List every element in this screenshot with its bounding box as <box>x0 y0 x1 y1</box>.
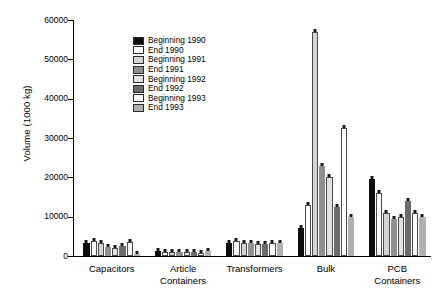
bar-top-marker <box>85 240 88 243</box>
bar <box>398 217 404 256</box>
legend-label: End 1992 <box>148 84 184 93</box>
bar-top-marker <box>99 240 102 243</box>
y-axis-tick-label-wrap: 0 <box>0 252 68 261</box>
bar <box>326 177 332 256</box>
bar-top-marker <box>185 249 188 252</box>
y-axis-tick-label: 0 <box>24 252 68 261</box>
bar <box>298 228 304 256</box>
bar-top-marker <box>249 240 252 243</box>
bar-group <box>83 20 140 256</box>
bar-top-marker <box>264 241 267 244</box>
bar <box>233 241 239 256</box>
bar-top-marker <box>392 216 395 219</box>
bar <box>412 213 418 256</box>
bar-top-marker <box>178 249 181 252</box>
bar <box>98 243 104 256</box>
y-axis-tick-label: 30000 <box>24 134 68 143</box>
bar <box>162 252 168 256</box>
bar-top-marker <box>242 240 245 243</box>
x-axis-category-label-line: PCB <box>352 263 436 275</box>
bar <box>127 242 133 256</box>
bar <box>205 251 211 256</box>
y-axis-tick-label-wrap: 20000 <box>0 173 68 182</box>
x-axis-category-label-line: Containers <box>138 275 228 287</box>
bar-top-marker <box>399 214 402 217</box>
plot-area <box>74 20 431 256</box>
bar-top-marker <box>192 249 195 252</box>
bar-top-marker <box>378 190 381 193</box>
bar <box>112 248 118 256</box>
bar <box>405 201 411 256</box>
y-axis-tick-label: 40000 <box>24 94 68 103</box>
bar-top-marker <box>171 249 174 252</box>
bar <box>255 244 261 256</box>
bar-top-marker <box>92 238 95 241</box>
legend-item: End 1993 <box>133 103 206 113</box>
y-axis-tick-label-wrap: 60000 <box>0 16 68 25</box>
bar-top-marker <box>107 244 110 247</box>
y-axis-tick-label: 10000 <box>24 212 68 221</box>
y-axis-tick-label-wrap: 40000 <box>0 94 68 103</box>
x-axis-category-label: PCBContainers <box>352 263 436 286</box>
legend-swatch <box>133 94 144 102</box>
bar-group <box>298 20 355 256</box>
legend-swatch <box>133 104 144 112</box>
bar <box>184 252 190 256</box>
bar <box>277 243 283 256</box>
bar-top-marker <box>200 250 203 253</box>
bar <box>419 217 425 256</box>
bar <box>334 207 340 256</box>
bar <box>348 217 354 256</box>
bar-top-marker <box>114 245 117 248</box>
bar-top-marker <box>342 125 345 128</box>
bar <box>91 241 97 256</box>
bar <box>262 244 268 256</box>
bar <box>248 243 254 256</box>
bar-top-marker <box>207 248 210 251</box>
bar-top-marker <box>164 249 167 252</box>
legend-swatch <box>133 46 144 54</box>
bar <box>191 252 197 256</box>
bar-top-marker <box>335 204 338 207</box>
y-axis-tick-label: 60000 <box>24 16 68 25</box>
legend-swatch <box>133 85 144 93</box>
legend-swatch <box>133 56 144 64</box>
bar-top-marker <box>299 225 302 228</box>
bar-top-marker <box>371 176 374 179</box>
bar-top-marker <box>271 240 274 243</box>
bar <box>319 166 325 256</box>
bar-top-marker <box>407 198 410 201</box>
bar-chart: Volume (1000 kg) 01000020000300004000050… <box>0 0 436 300</box>
bar <box>312 32 318 256</box>
bar-top-marker <box>385 210 388 213</box>
bar-top-marker <box>235 238 238 241</box>
legend-label: End 1993 <box>148 103 184 112</box>
legend-swatch <box>133 75 144 83</box>
bar <box>134 254 140 256</box>
legend-item: End 1991 <box>133 65 206 75</box>
bar-top-marker <box>228 240 231 243</box>
bar <box>119 246 125 256</box>
bar <box>383 213 389 256</box>
bar-top-marker <box>257 241 260 244</box>
bar-top-marker <box>156 248 159 251</box>
bar <box>83 243 89 256</box>
y-axis-tick-label-wrap: 30000 <box>0 134 68 143</box>
legend-label: Beginning 1990 <box>148 36 206 45</box>
x-axis-category-label-line: Containers <box>352 275 436 287</box>
bar <box>369 179 375 256</box>
bar-top-marker <box>306 202 309 205</box>
bar-top-marker <box>314 29 317 32</box>
x-axis-line <box>73 256 431 257</box>
bar <box>105 247 111 256</box>
legend-label: End 1991 <box>148 65 184 74</box>
legend-swatch <box>133 37 144 45</box>
bar-group <box>369 20 426 256</box>
bar-top-marker <box>421 214 424 217</box>
bar-group <box>226 20 283 256</box>
y-axis-tick-label-wrap: 10000 <box>0 212 68 221</box>
bar-top-marker <box>350 214 353 217</box>
bar-top-marker <box>135 251 138 254</box>
y-axis-tick-label-wrap: 50000 <box>0 55 68 64</box>
bar <box>198 253 204 256</box>
